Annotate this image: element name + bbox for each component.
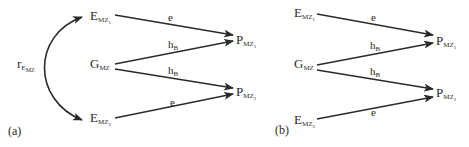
edge-label-hb-bottom: hB [168,64,179,78]
edge-label-hb-bottom: hB [370,65,381,79]
node-g-mz: GMZ [90,56,110,72]
edge-label-hb-top: hB [168,38,179,52]
node-p-mz1: PMZ1 [236,32,257,49]
correlation-label: rEMZ [17,56,35,73]
node-e-mz1: EMZ1 [294,5,315,22]
panel-label-b: (b) [275,123,289,137]
edge-label-e-top: e [168,11,173,23]
edge-e1-p1 [115,15,233,35]
edge-label-e-bottom: e [170,96,175,108]
node-g-mz: GMZ [294,56,314,72]
panel-label-a: (a) [8,124,21,138]
edge-label-e-top: e [371,11,376,23]
node-e-mz2: EMZ2 [294,112,315,129]
correlation-arc [45,17,83,120]
panel-b: EMZ1 GMZ EMZ2 PMZ1 PMZ2 e hB hB e (b) [275,5,457,137]
edge-label-e-bottom: e [371,106,376,118]
node-e-mz2: EMZ2 [90,110,111,127]
path-diagram: rEMZ EMZ1 GMZ EMZ2 PMZ1 PMZ2 e hB hB [0,0,469,147]
node-p-mz2: PMZ2 [236,84,257,101]
node-p-mz2: PMZ2 [436,85,457,102]
edge-label-hb-top: hB [370,39,381,53]
node-p-mz1: PMZ1 [436,33,457,50]
node-e-mz1: EMZ1 [90,8,111,25]
panel-a: rEMZ EMZ1 GMZ EMZ2 PMZ1 PMZ2 e hB hB [8,8,257,138]
